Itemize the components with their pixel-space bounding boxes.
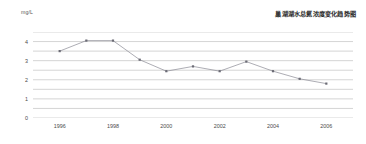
- data-markers: [59, 40, 328, 85]
- data-point-marker: [245, 61, 247, 63]
- chart-title: 巢湖湖水总氮浓度变化趋势图: [275, 9, 356, 18]
- data-point-marker: [299, 78, 301, 80]
- y-axis-tick-label: 0: [14, 115, 28, 121]
- x-axis-tick-label: 2004: [260, 123, 286, 129]
- data-line: [60, 41, 327, 84]
- data-point-marker: [139, 59, 141, 61]
- data-point-marker: [192, 65, 194, 67]
- y-axis-unit-label: mg/L: [21, 9, 33, 15]
- data-point-marker: [325, 83, 327, 85]
- gridlines: [33, 32, 353, 118]
- line-chart-svg: [33, 32, 353, 118]
- data-point-marker: [112, 40, 114, 42]
- x-axis-tick-label: 2002: [207, 123, 233, 129]
- data-point-marker: [59, 50, 61, 52]
- y-axis-tick-label: 4: [14, 39, 28, 45]
- plot-area: [33, 32, 353, 118]
- data-point-marker: [165, 70, 167, 72]
- data-point-marker: [272, 70, 274, 72]
- data-point-marker: [219, 70, 221, 72]
- y-axis-tick-label: 1: [14, 96, 28, 102]
- x-axis-tick-label: 1998: [100, 123, 126, 129]
- chart-container: mg/L 巢湖湖水总氮浓度变化趋势图 01234 199619982000200…: [0, 0, 366, 144]
- x-axis-tick-label: 1996: [47, 123, 73, 129]
- x-axis-tick-label: 2006: [313, 123, 339, 129]
- data-point-marker: [85, 40, 87, 42]
- y-axis-tick-label: 2: [14, 77, 28, 83]
- y-axis-tick-label: 3: [14, 58, 28, 64]
- x-axis-tick-label: 2000: [153, 123, 179, 129]
